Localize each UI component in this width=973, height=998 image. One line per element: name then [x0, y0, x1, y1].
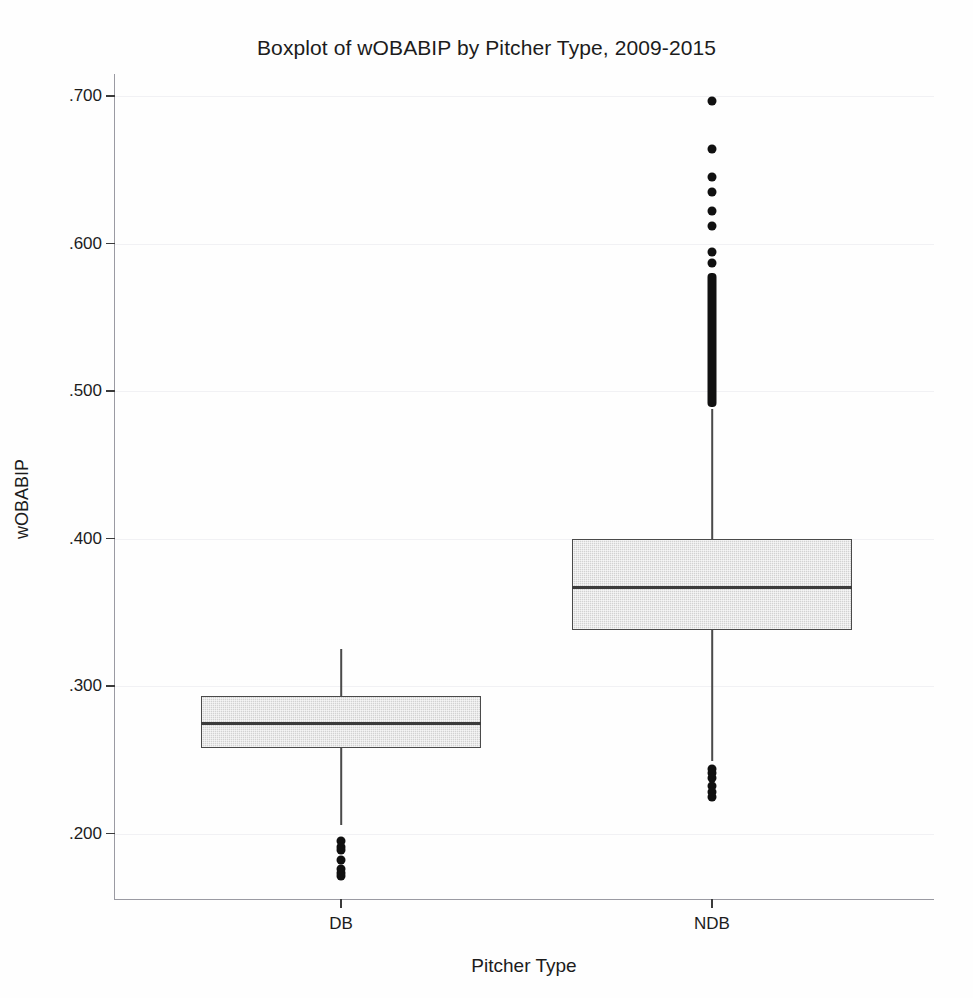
outlier-point — [708, 173, 717, 182]
outlier-point — [708, 773, 717, 782]
outlier-point — [708, 96, 717, 105]
box-iqr — [572, 539, 852, 630]
y-axis-title: wOBABIP — [12, 459, 33, 539]
outlier-point — [708, 792, 717, 801]
y-tick-mark — [106, 833, 115, 835]
whisker-lower — [711, 630, 713, 761]
x-tick-mark — [711, 899, 713, 908]
boxplot-ndb — [115, 74, 934, 899]
outlier-point — [708, 258, 717, 267]
y-tick-mark — [106, 243, 115, 245]
x-tick-label-db: DB — [329, 914, 353, 934]
chart-title: Boxplot of wOBABIP by Pitcher Type, 2009… — [0, 36, 973, 60]
whisker-upper — [711, 409, 713, 539]
y-tick-label: .600 — [69, 234, 102, 254]
outlier-point — [708, 221, 717, 230]
outlier-point — [708, 188, 717, 197]
median-line — [572, 586, 852, 589]
outlier-cluster — [708, 273, 717, 407]
y-tick-label: .300 — [69, 676, 102, 696]
y-tick-mark — [106, 538, 115, 540]
x-tick-mark — [340, 899, 342, 908]
y-tick-mark — [106, 685, 115, 687]
y-tick-label: .200 — [69, 824, 102, 844]
outlier-point — [708, 248, 717, 257]
x-axis-title: Pitcher Type — [114, 955, 934, 977]
outlier-point — [708, 145, 717, 154]
plot-area: .200.300.400.500.600.700 DBNDB — [114, 74, 934, 900]
y-tick-mark — [106, 390, 115, 392]
x-tick-label-ndb: NDB — [694, 914, 730, 934]
y-tick-label: .400 — [69, 529, 102, 549]
boxplot-figure: Boxplot of wOBABIP by Pitcher Type, 2009… — [0, 0, 973, 998]
outlier-point — [708, 207, 717, 216]
y-tick-label: .700 — [69, 86, 102, 106]
y-tick-label: .500 — [69, 381, 102, 401]
y-tick-mark — [106, 95, 115, 97]
